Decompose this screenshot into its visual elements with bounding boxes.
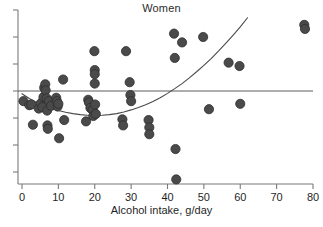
- data-point: [236, 99, 245, 108]
- data-point: [145, 130, 154, 139]
- data-point: [169, 29, 178, 38]
- data-point: [177, 38, 186, 47]
- data-point: [235, 61, 244, 70]
- data-point: [127, 97, 136, 106]
- data-point: [300, 24, 309, 33]
- data-point: [121, 47, 130, 56]
- data-point: [119, 121, 128, 130]
- data-point: [172, 175, 181, 184]
- data-point: [59, 75, 68, 84]
- x-axis-tick-label: 50: [198, 191, 210, 203]
- x-axis-tick-label: 70: [271, 191, 283, 203]
- data-point: [90, 47, 99, 56]
- data-point: [60, 115, 69, 124]
- data-point: [55, 134, 64, 143]
- x-axis-tick-label: 0: [19, 191, 25, 203]
- data-point: [170, 53, 179, 62]
- data-point: [90, 70, 99, 79]
- x-axis-tick-label: 10: [52, 191, 64, 203]
- data-point: [224, 58, 233, 67]
- data-point: [90, 79, 99, 88]
- data-point: [28, 120, 37, 129]
- data-point: [204, 105, 213, 114]
- x-axis-tick-label: 60: [234, 191, 246, 203]
- data-point: [171, 144, 180, 153]
- x-axis-tick-label: 20: [89, 191, 101, 203]
- data-point-group: [19, 20, 310, 184]
- x-axis-tick-label: 40: [161, 191, 173, 203]
- data-point: [125, 78, 134, 87]
- x-axis-tick-label: 80: [307, 191, 319, 203]
- data-point: [43, 124, 52, 133]
- x-axis-title: Alcohol intake, g/day: [0, 204, 323, 216]
- data-point: [91, 100, 100, 109]
- data-point: [199, 32, 208, 41]
- data-point: [91, 109, 100, 118]
- scatter-plot-canvas: 01020304050607080: [0, 0, 323, 227]
- x-axis-tick-label: 30: [125, 191, 137, 203]
- chart-figure: Women 01020304050607080 Alcohol intake, …: [0, 0, 323, 227]
- data-point: [54, 99, 63, 108]
